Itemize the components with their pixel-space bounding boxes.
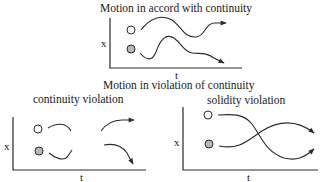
trajectory-white-a xyxy=(48,124,71,131)
gray-ball-icon xyxy=(127,45,135,53)
y-axis-label: x xyxy=(4,141,10,152)
axes xyxy=(13,117,146,170)
panel-continuity xyxy=(110,17,242,68)
gray-ball-icon xyxy=(35,147,43,155)
title-continuity: Motion in accord with continuity xyxy=(100,2,252,14)
axes xyxy=(110,18,242,68)
panel-label-continuity-violation: continuity violation xyxy=(33,93,123,105)
white-ball-icon xyxy=(204,111,212,119)
trajectory-gray xyxy=(219,123,314,147)
panel-solidity-violation xyxy=(183,107,318,170)
trajectory-white xyxy=(141,17,226,37)
panel-label-solidity-violation: solidity violation xyxy=(207,94,285,106)
x-axis-label: t xyxy=(80,172,83,182)
gray-ball-icon xyxy=(205,140,213,148)
y-axis-label: x xyxy=(174,137,180,148)
white-ball-icon xyxy=(127,26,135,34)
x-axis-label: t xyxy=(247,172,250,182)
trajectory-gray-a xyxy=(49,150,72,159)
trajectory-white-b xyxy=(101,120,134,131)
trajectory-gray xyxy=(140,36,224,63)
diagram-canvas xyxy=(0,0,329,182)
trajectory-gray-b xyxy=(104,144,133,164)
panel-continuity-violation xyxy=(13,117,146,170)
y-axis-label: x xyxy=(101,38,107,49)
trajectory-white xyxy=(218,115,314,160)
title-violation: Motion in violation of continuity xyxy=(103,79,254,91)
white-ball-icon xyxy=(34,125,42,133)
